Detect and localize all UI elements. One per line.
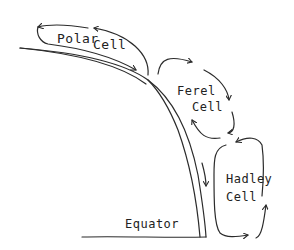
earth-surface-outline [20, 48, 206, 237]
hadley-cell-label-word1: Hadley [226, 173, 272, 185]
circulation-diagram: Polar Cell Ferel Cell Hadley Cell Equato… [0, 0, 294, 250]
ferrel-cell-arrows [158, 58, 234, 138]
diagram-drawing [0, 0, 294, 250]
hadley-cell-label-word2: Cell [226, 191, 257, 203]
polar-cell-label-word2: Cell [93, 38, 126, 51]
equator-label: Equator [125, 218, 179, 230]
equator-line [82, 237, 206, 238]
ferrel-cell-label-word1: Ferel [177, 85, 216, 97]
hadley-cell-arrows [202, 138, 266, 238]
ferrel-cell-label-word2: Cell [192, 101, 223, 113]
